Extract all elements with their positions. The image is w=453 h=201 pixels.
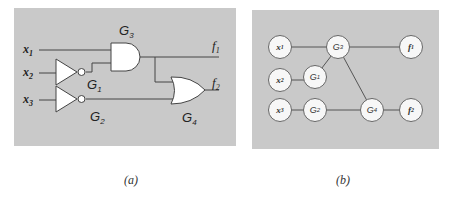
graph-node-g2: G2 — [303, 98, 327, 122]
caption-a: (a) — [124, 173, 138, 188]
not-gate-g1 — [56, 59, 85, 85]
caption-b: (b) — [336, 173, 350, 188]
output-label-f2: f2 — [212, 76, 220, 92]
or-gate-g4 — [171, 77, 205, 104]
output-label-f1: f1 — [212, 39, 220, 55]
gate-label-g2: G2 — [90, 110, 105, 126]
gate-label-g1: G1 — [87, 78, 102, 94]
graph-node-f2: f2 — [399, 98, 423, 122]
graph-node-g3: G3 — [326, 35, 350, 59]
input-label-x3: x3 — [23, 93, 33, 108]
circuit-diagram-panel: x1 x2 x3 G1 G2 G3 G4 f1 f2 — [14, 8, 236, 146]
not-gate-g2 — [56, 86, 85, 112]
and-gate-g3 — [111, 43, 140, 71]
graph-node-x2: x2 — [268, 68, 292, 92]
graph-node-f1: f1 — [399, 35, 423, 59]
input-label-x2: x2 — [23, 66, 33, 81]
gate-label-g4: G4 — [182, 111, 197, 127]
graph-diagram-panel: x1 x2 x3 G1 G2 G3 G4 f1 f2 — [252, 10, 439, 149]
graph-node-g4: G4 — [360, 98, 384, 122]
gate-label-g3: G3 — [119, 24, 134, 40]
graph-node-x3: x3 — [268, 98, 292, 122]
graph-node-g1: G1 — [303, 65, 327, 89]
graph-node-x1: x1 — [268, 35, 292, 59]
input-label-x1: x1 — [23, 43, 33, 58]
